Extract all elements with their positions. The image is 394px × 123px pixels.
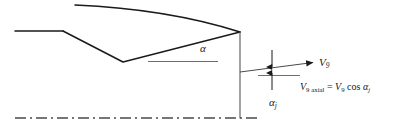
diagram-canvas: [0, 0, 394, 123]
alpha-j-base: α: [269, 96, 275, 108]
angle-alpha-j-label: αj: [269, 97, 277, 108]
jet-flow-direction-vector: [240, 63, 313, 73]
equation-rhs-station: 9: [341, 86, 344, 93]
velocity-v9-label: V9: [319, 57, 329, 68]
equation-rhs-angle-subscript: j: [368, 86, 370, 93]
vane-upper-camber-curve: [75, 5, 240, 32]
axial-velocity-equation: V9 axial = V9 cos αj: [300, 82, 370, 92]
equation-equals: =: [324, 81, 335, 92]
equation-cos: cos: [345, 81, 363, 92]
angle-alpha-label: α: [200, 43, 206, 54]
equation-lhs-station: 9: [306, 86, 309, 93]
vane-lower-ramp: [63, 31, 240, 62]
equation-lhs-word: axial: [310, 86, 325, 93]
nozzle-vane-diagram: α αj V9 V9 axial = V9 cos αj: [0, 0, 394, 123]
v9-base: V: [319, 56, 326, 68]
alpha-j-subscript: j: [275, 101, 277, 110]
v9-subscript: 9: [326, 61, 330, 70]
